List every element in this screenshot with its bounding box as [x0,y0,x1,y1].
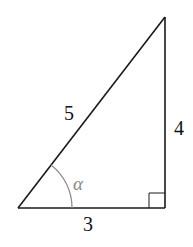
right-angle-marker [149,193,165,208]
angle-arc-alpha [51,165,72,208]
right-triangle-diagram: 5 4 3 α [0,0,193,247]
hypotenuse-line [18,17,165,208]
vertical-side-label: 4 [174,117,184,139]
angle-alpha-label: α [73,173,84,194]
base-label: 3 [83,213,93,235]
hypotenuse-label: 5 [64,102,74,124]
